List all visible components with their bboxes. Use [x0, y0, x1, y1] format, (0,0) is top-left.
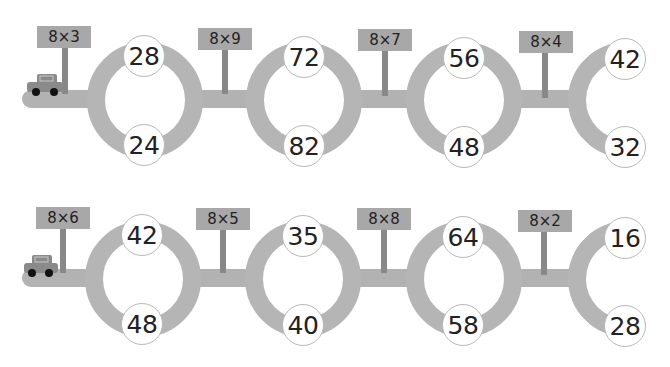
- multiplication-sign: 8×4: [519, 31, 573, 53]
- answer-bubble[interactable]: 28: [123, 35, 165, 77]
- answer-bubble[interactable]: 48: [443, 126, 485, 168]
- answer-bubble[interactable]: 42: [121, 214, 163, 256]
- answer-bubble[interactable]: 82: [283, 125, 325, 167]
- multiplication-sign: 8×5: [196, 208, 250, 230]
- answer-bubble[interactable]: 35: [282, 215, 324, 257]
- road-row-1: 8×3 8×9 8×7 8×4 28 24 72 82 56 48 42 32: [0, 0, 670, 180]
- multiplication-sign: 8×3: [37, 26, 91, 48]
- multiplication-sign: 8×9: [198, 28, 252, 50]
- answer-bubble[interactable]: 48: [121, 303, 163, 345]
- answer-bubble[interactable]: 72: [283, 36, 325, 78]
- answer-bubble[interactable]: 16: [604, 217, 646, 259]
- answer-bubble[interactable]: 58: [442, 304, 484, 346]
- multiplication-sign: 8×6: [36, 207, 90, 229]
- answer-bubble[interactable]: 64: [442, 216, 484, 258]
- sign-pole: [541, 229, 547, 275]
- sign-pole: [542, 50, 548, 98]
- sign-pole: [220, 227, 226, 273]
- multiplication-sign: 8×2: [518, 210, 572, 232]
- multiplication-sign: 8×8: [357, 208, 411, 230]
- answer-bubble[interactable]: 42: [604, 38, 646, 80]
- car-icon: [22, 253, 62, 279]
- road-row-2: 8×6 8×5 8×8 8×2 42 48 35 40 64 58 16 28: [0, 187, 670, 367]
- sign-pole: [222, 46, 228, 94]
- multiplication-sign: 8×7: [358, 29, 412, 51]
- answer-bubble[interactable]: 32: [604, 126, 646, 168]
- sign-pole: [381, 227, 387, 273]
- answer-bubble[interactable]: 24: [123, 124, 165, 166]
- answer-bubble[interactable]: 28: [604, 305, 646, 347]
- answer-bubble[interactable]: 40: [282, 304, 324, 346]
- answer-bubble[interactable]: 56: [443, 37, 485, 79]
- car-icon: [25, 72, 65, 98]
- sign-pole: [382, 48, 388, 96]
